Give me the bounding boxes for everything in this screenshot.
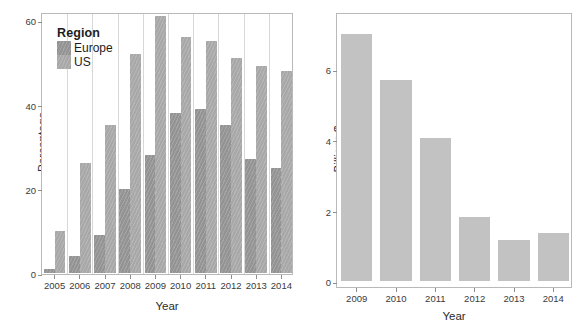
plot-area-right: 0246200920102011201220132014: [336, 13, 572, 288]
legend-item-us[interactable]: US: [57, 55, 113, 69]
y-tick-label: 2: [326, 207, 331, 217]
legend-item-europe[interactable]: Europe: [57, 41, 113, 55]
x-tick-label: 2009: [145, 281, 166, 291]
panel-billions-dollars: Billions $ 0246200920102011201220132014 …: [300, 0, 588, 322]
x-tick-label: 2014: [271, 281, 292, 291]
y-tick-mark: [333, 283, 337, 284]
legend-key-europe-swatch: [57, 41, 71, 55]
bar-europe-2007: [94, 235, 105, 273]
x-tick-mark: [396, 288, 397, 292]
y-tick-mark: [333, 212, 337, 213]
group-separator: [244, 14, 245, 274]
bar-europe-2006: [69, 256, 80, 273]
x-tick-label: 2013: [503, 294, 524, 304]
x-tick-label: 2011: [196, 281, 216, 291]
y-tick-label: 20: [25, 185, 36, 195]
x-tick-label: 2012: [220, 281, 241, 291]
panel-percentage-by-region: Percentage 02040602005200620072008200920…: [0, 0, 300, 322]
bar-billions-2013: [498, 240, 529, 281]
x-tick-label: 2012: [464, 294, 485, 304]
group-separator: [218, 14, 219, 274]
bar-europe-2012: [220, 125, 231, 273]
bar-billions-2009: [341, 34, 372, 281]
bar-europe-2009: [145, 155, 156, 273]
legend-label-europe: Europe: [74, 42, 113, 54]
x-tick-mark: [205, 275, 206, 279]
bar-us-2006: [80, 163, 91, 273]
bar-us-2007: [105, 125, 116, 273]
bar-billions-2010: [380, 80, 411, 281]
bar-us-2014: [281, 71, 292, 273]
x-tick-mark: [105, 275, 106, 279]
bar-billions-2014: [538, 233, 569, 281]
x-tick-label: 2008: [120, 281, 141, 291]
y-tick-mark: [38, 275, 42, 276]
group-separator: [143, 14, 144, 274]
x-tick-mark: [553, 288, 554, 292]
x-tick-mark: [130, 275, 131, 279]
legend-key-us-swatch: [57, 55, 71, 69]
y-tick-mark: [333, 141, 337, 142]
x-tick-label: 2005: [44, 281, 65, 291]
bar-europe-2005: [44, 269, 55, 273]
group-separator: [193, 14, 194, 274]
x-tick-mark: [281, 275, 282, 279]
y-tick-mark: [38, 22, 42, 23]
x-tick-mark: [54, 275, 55, 279]
group-separator: [168, 14, 169, 274]
bar-us-2009: [155, 16, 166, 273]
bar-us-2005: [55, 231, 66, 273]
group-separator: [118, 14, 119, 274]
x-tick-label: 2009: [346, 294, 367, 304]
legend-title: Region: [57, 26, 113, 40]
bar-europe-2010: [170, 113, 181, 273]
x-tick-label: 2010: [385, 294, 406, 304]
x-tick-label: 2010: [170, 281, 191, 291]
bar-us-2012: [231, 58, 242, 273]
bar-us-2011: [206, 41, 217, 273]
y-tick-mark: [38, 106, 42, 107]
x-tick-mark: [180, 275, 181, 279]
bar-us-2010: [181, 37, 192, 273]
x-axis-label-year-right: Year: [336, 310, 572, 322]
y-tick-mark: [333, 71, 337, 72]
x-tick-label: 2006: [69, 281, 90, 291]
x-tick-label: 2013: [246, 281, 267, 291]
x-tick-mark: [79, 275, 80, 279]
x-tick-mark: [231, 275, 232, 279]
plot-inner-right: 0246200920102011201220132014: [337, 14, 571, 287]
bar-europe-2011: [195, 109, 206, 273]
y-tick-label: 40: [25, 101, 36, 111]
x-tick-mark: [256, 275, 257, 279]
y-tick-label: 6: [326, 66, 331, 76]
x-tick-label: 2007: [94, 281, 115, 291]
bar-europe-2008: [119, 189, 130, 273]
bar-us-2008: [130, 54, 141, 273]
x-tick-mark: [474, 288, 475, 292]
bar-europe-2013: [245, 159, 256, 273]
x-tick-label: 2011: [425, 294, 445, 304]
bar-billions-2012: [459, 217, 490, 281]
legend-region: Region Europe US: [57, 26, 113, 69]
bar-billions-2011: [420, 138, 451, 281]
x-tick-mark: [435, 288, 436, 292]
y-tick-label: 60: [25, 17, 36, 27]
x-tick-label: 2014: [543, 294, 564, 304]
y-tick-label: 4: [326, 136, 331, 146]
y-tick-mark: [38, 190, 42, 191]
y-tick-label: 0: [326, 278, 331, 288]
x-tick-mark: [356, 288, 357, 292]
x-tick-mark: [514, 288, 515, 292]
bar-us-2013: [256, 66, 267, 273]
bar-europe-2014: [271, 168, 282, 273]
y-tick-label: 0: [31, 270, 36, 280]
x-axis-label-year-left: Year: [41, 300, 293, 312]
figure-two-panel-bar-charts: Percentage 02040602005200620072008200920…: [0, 0, 588, 322]
group-separator: [269, 14, 270, 274]
legend-label-us: US: [74, 56, 91, 68]
x-tick-mark: [155, 275, 156, 279]
